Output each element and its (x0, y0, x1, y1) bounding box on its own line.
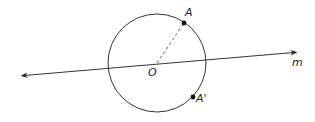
reflection-diagram: A O A' m (0, 0, 315, 122)
point-a (182, 21, 187, 26)
label-m: m (292, 56, 303, 69)
point-a-prime (191, 95, 196, 100)
label-o: O (148, 66, 157, 79)
label-a: A (184, 6, 193, 19)
label-a-prime: A' (195, 92, 207, 105)
segment-o-a-dashed (157, 23, 184, 63)
line-m (22, 52, 296, 75)
